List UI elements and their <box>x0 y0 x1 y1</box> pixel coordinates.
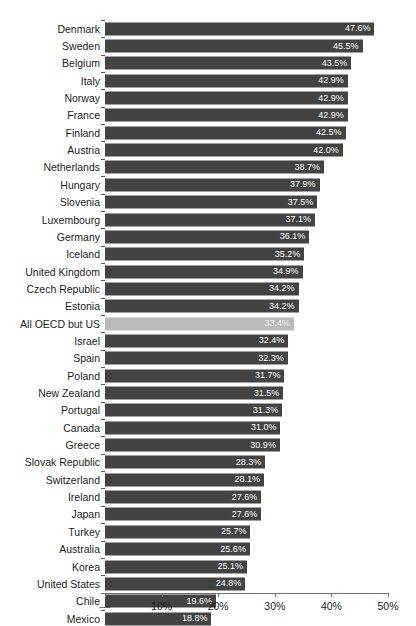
bar-value-label: 31.0% <box>251 423 277 432</box>
category-label: Hungary <box>60 180 100 191</box>
bar-value-label: 33.4% <box>265 319 291 328</box>
bar-value-label: 34.2% <box>269 284 295 293</box>
bar: 25.7% <box>105 525 250 538</box>
category-tick <box>101 367 105 368</box>
category-label: Sweden <box>62 41 100 52</box>
category-label: Estonia <box>65 301 100 312</box>
category-label: Poland <box>67 370 100 381</box>
category-label: New Zealand <box>38 388 100 399</box>
plot-area: Denmark47.6%Sweden45.5%Belgium43.5%Italy… <box>0 0 416 626</box>
category-label: Austria <box>67 145 100 156</box>
category-tick <box>101 558 105 559</box>
category-label: Slovenia <box>60 197 100 208</box>
category-label: Switzerland <box>46 475 100 486</box>
x-axis-tick <box>105 593 106 597</box>
bar: 33.4% <box>105 317 294 330</box>
bar-value-label: 35.2% <box>275 250 301 259</box>
bar: 45.5% <box>105 40 363 53</box>
chart-row: Austria42.0% <box>0 141 416 158</box>
chart-row: Canada31.0% <box>0 419 416 436</box>
bar-value-label: 34.9% <box>273 267 299 276</box>
chart-row: Italy42.9% <box>0 72 416 89</box>
bar-value-label: 28.3% <box>236 458 262 467</box>
chart-row: Slovenia37.5% <box>0 194 416 211</box>
x-axis-tick <box>275 593 276 597</box>
category-label: Netherlands <box>43 162 100 173</box>
category-label: Mexico <box>67 613 100 624</box>
category-label: Ireland <box>68 492 100 503</box>
chart-row: France42.9% <box>0 107 416 124</box>
bar: 31.3% <box>105 404 282 417</box>
category-label: Belgium <box>62 58 100 69</box>
x-axis-tick-label: — <box>100 600 111 612</box>
category-tick <box>101 506 105 507</box>
bar: 37.9% <box>105 178 320 191</box>
bar-value-label: 42.9% <box>318 76 344 85</box>
category-tick <box>101 436 105 437</box>
category-tick <box>101 263 105 264</box>
chart-row: Japan27.6% <box>0 506 416 523</box>
bar: 31.5% <box>105 387 283 400</box>
x-axis-tick-label: 40% <box>321 600 342 612</box>
chart-row: Germany36.1% <box>0 228 416 245</box>
category-label: Turkey <box>68 527 100 538</box>
category-label: Italy <box>81 75 100 86</box>
bar-value-label: 42.5% <box>316 128 342 137</box>
bar: 42.0% <box>105 144 343 157</box>
bar: 32.3% <box>105 352 288 365</box>
bar-value-label: 42.9% <box>318 111 344 120</box>
category-tick <box>101 211 105 212</box>
bar-value-label: 30.9% <box>250 441 276 450</box>
x-axis-tick <box>218 593 219 597</box>
category-label: Portugal <box>61 405 100 416</box>
bar-value-label: 27.6% <box>232 510 258 519</box>
bar-value-label: 27.6% <box>232 493 258 502</box>
bar-value-label: 32.3% <box>258 354 284 363</box>
chart-row: Slovak Republic28.3% <box>0 454 416 471</box>
category-label: Iceland <box>66 249 100 260</box>
bar: 42.9% <box>105 74 348 87</box>
chart-row: Luxembourg37.1% <box>0 211 416 228</box>
chart-row: Netherlands38.7% <box>0 159 416 176</box>
category-label: Denmark <box>57 23 100 34</box>
category-tick <box>101 55 105 56</box>
chart-row: Israel32.4% <box>0 332 416 349</box>
category-tick <box>101 72 105 73</box>
bar: 28.1% <box>105 473 264 486</box>
chart-row: Denmark47.6% <box>0 20 416 37</box>
category-label: Luxembourg <box>42 214 100 225</box>
bar-value-label: 34.2% <box>269 302 295 311</box>
bar: 32.4% <box>105 334 288 347</box>
category-label: Germany <box>57 232 100 243</box>
category-label: Canada <box>63 422 100 433</box>
bar: 47.6% <box>105 22 374 35</box>
category-tick <box>101 350 105 351</box>
category-tick <box>101 280 105 281</box>
bar-value-label: 38.7% <box>295 163 321 172</box>
x-axis-tick-label: 30% <box>264 600 285 612</box>
chart-row: Switzerland28.1% <box>0 471 416 488</box>
category-tick <box>101 332 105 333</box>
category-tick <box>101 541 105 542</box>
bar: 34.2% <box>105 282 299 295</box>
chart-row: Portugal31.3% <box>0 402 416 419</box>
bar: 37.1% <box>105 213 315 226</box>
category-tick <box>101 246 105 247</box>
category-label: Japan <box>71 509 100 520</box>
bar: 28.3% <box>105 456 265 469</box>
category-tick <box>101 315 105 316</box>
chart-row: All OECD but US33.4% <box>0 315 416 332</box>
category-tick <box>101 124 105 125</box>
category-tick <box>101 228 105 229</box>
bar: 31.7% <box>105 369 284 382</box>
category-label: Greece <box>66 440 100 451</box>
bar-value-label: 25.6% <box>220 545 246 554</box>
chart-row: New Zealand31.5% <box>0 384 416 401</box>
bar: 18.8% <box>105 612 211 625</box>
bar: 24.8% <box>105 577 245 590</box>
x-axis-line <box>101 593 388 594</box>
bar: 35.2% <box>105 248 304 261</box>
x-axis-tick-label: 50% <box>377 600 398 612</box>
bar-value-label: 31.3% <box>253 406 279 415</box>
bar-value-label: 24.8% <box>216 579 242 588</box>
